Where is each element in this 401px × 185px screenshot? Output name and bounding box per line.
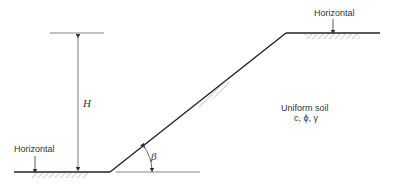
angle-label: β	[151, 150, 156, 162]
top-horizontal-label: Horizontal	[314, 8, 355, 18]
bottom-horizontal-label: Horizontal	[14, 144, 55, 154]
soil-title: Uniform soil	[281, 103, 329, 113]
soil-parameters: c, ϕ, γ	[294, 113, 318, 123]
bottom-ground-hatch	[32, 173, 88, 178]
height-label: H	[83, 97, 91, 109]
slope-hatch	[196, 79, 232, 109]
slope-diagram	[0, 0, 401, 185]
top-ground-hatch	[305, 34, 360, 39]
